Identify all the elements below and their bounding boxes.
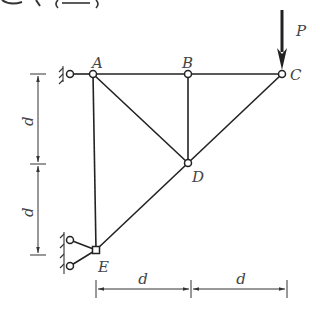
header-fragment bbox=[2, 0, 98, 8]
truss-diagram: A B C D E P d d d d bbox=[0, 0, 320, 315]
dimension-horizontal: d d bbox=[96, 270, 287, 298]
label-d: D bbox=[191, 168, 204, 186]
dim-label-horizontal-2: d bbox=[236, 270, 246, 288]
support-a bbox=[59, 66, 93, 84]
support-pin-e-upper bbox=[67, 237, 74, 244]
support-pin-a bbox=[67, 71, 74, 78]
member-de bbox=[96, 163, 188, 250]
label-p: P bbox=[295, 22, 307, 40]
member-cd bbox=[188, 74, 282, 163]
joint-e bbox=[93, 247, 100, 254]
label-c: C bbox=[290, 66, 302, 84]
joint-d bbox=[185, 160, 192, 167]
support-e bbox=[60, 232, 96, 274]
support-pin-e-lower bbox=[67, 263, 74, 270]
load-p: P bbox=[277, 10, 307, 70]
joint-c bbox=[279, 71, 286, 78]
dim-label-horizontal-1: d bbox=[138, 270, 148, 288]
dim-label-vertical-2: d bbox=[19, 207, 37, 217]
label-b: B bbox=[181, 54, 193, 72]
member-ae bbox=[93, 74, 96, 250]
label-a: A bbox=[90, 54, 103, 72]
dim-label-vertical-1: d bbox=[19, 116, 37, 126]
member-ad bbox=[93, 74, 188, 163]
dimension-vertical: d d bbox=[19, 74, 46, 255]
label-e: E bbox=[97, 258, 109, 276]
